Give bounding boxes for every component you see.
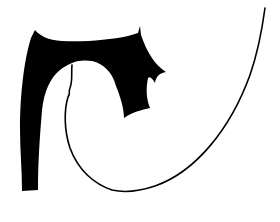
ink-drawing <box>0 0 280 222</box>
drawing-canvas <box>0 0 280 222</box>
